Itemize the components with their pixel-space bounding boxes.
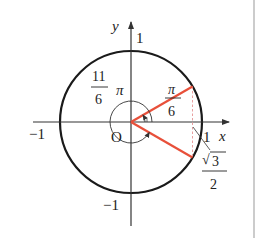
origin-label: O — [111, 129, 122, 145]
large-angle-pi: π — [116, 82, 124, 98]
x-tick-pos: 1 — [203, 129, 211, 145]
large-angle-numerator: 11 — [92, 69, 105, 84]
large-angle-denominator: 6 — [95, 92, 102, 107]
projection-numerator-value: 3 — [212, 154, 219, 169]
small-angle-denominator: 6 — [168, 104, 175, 119]
small-angle-numerator: π — [168, 82, 176, 97]
y-tick-neg: −1 — [103, 197, 119, 213]
projection-denominator: 2 — [210, 177, 217, 192]
projection-radical: √ — [202, 152, 210, 167]
y-axis-label: y — [110, 18, 119, 34]
angle-arc-pi-over-6 — [143, 115, 145, 122]
ray-11pi-over-6 — [131, 122, 193, 158]
x-axis-label: x — [218, 128, 226, 144]
ray-pi-over-6 — [131, 87, 193, 123]
unit-circle-diagram: y 1 −1 −1 1 x O 11 6 π π 6 √ 3 2 — [0, 0, 256, 238]
x-tick-neg: −1 — [29, 126, 45, 142]
y-tick-pos: 1 — [136, 30, 144, 46]
